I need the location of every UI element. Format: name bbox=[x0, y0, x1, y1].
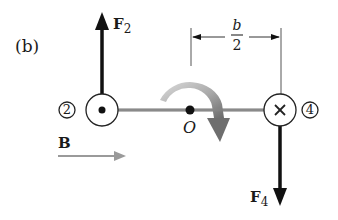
panel-label: (b) bbox=[15, 38, 39, 55]
current-loop-torque-diagram: (b) F2 2 4 O b 2 B F4 bbox=[0, 0, 338, 220]
force-f2-subscript: 2 bbox=[124, 22, 132, 36]
pivot-label: O bbox=[183, 120, 196, 136]
force-f4-arrow-icon bbox=[273, 126, 287, 206]
force-f4-name: F bbox=[250, 188, 261, 206]
dimension-numerator: b bbox=[232, 18, 242, 32]
force-f2-label: F2 bbox=[113, 17, 131, 32]
magnetic-field-arrow-icon bbox=[58, 151, 126, 161]
wire-2-number: 2 bbox=[62, 103, 72, 116]
magnetic-field-label: B bbox=[58, 136, 71, 151]
force-f2-name: F bbox=[113, 15, 124, 33]
force-f2-arrow-icon bbox=[95, 12, 109, 94]
wire-4-number: 4 bbox=[305, 103, 315, 116]
wire-2-current-out-icon bbox=[86, 94, 118, 126]
force-f4-label: F4 bbox=[250, 190, 268, 205]
dimension-denominator: 2 bbox=[232, 38, 242, 52]
diagram-graphics bbox=[0, 0, 338, 220]
pivot-point bbox=[186, 106, 195, 115]
wire-4-current-in-icon bbox=[264, 94, 296, 126]
force-f4-subscript: 4 bbox=[261, 195, 269, 209]
